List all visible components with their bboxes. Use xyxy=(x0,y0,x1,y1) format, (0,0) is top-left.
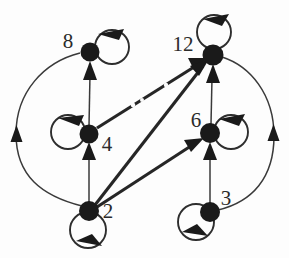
arrowhead-3-to-12 xyxy=(268,124,280,141)
directed-graph-figure: 8 12 4 6 2 3 xyxy=(0,0,289,258)
edge-2-to-4 xyxy=(82,142,96,204)
node-label-12: 12 xyxy=(173,32,194,56)
node-label-3: 3 xyxy=(221,186,232,210)
node-8[interactable] xyxy=(81,43,100,62)
edge-2-to-8-curve xyxy=(11,53,83,206)
edge-3-to-6 xyxy=(203,142,217,204)
node-6[interactable] xyxy=(200,123,220,143)
node-2[interactable] xyxy=(79,201,99,221)
arrowhead-4-to-8 xyxy=(83,61,97,80)
arrowhead-loop-3 xyxy=(182,224,208,236)
arrowhead-2-to-4 xyxy=(82,142,96,160)
self-loop-8 xyxy=(95,29,129,64)
self-loop-12 xyxy=(197,14,231,49)
arrowhead-6-to-12 xyxy=(206,64,220,83)
edge-2-to-6 xyxy=(97,138,204,207)
arrowhead-3-to-6 xyxy=(203,142,217,160)
node-3[interactable] xyxy=(200,202,220,222)
arrowhead-loop-2 xyxy=(76,234,102,246)
arrowhead-2-to-8 xyxy=(11,125,23,142)
edge-4-to-8 xyxy=(83,61,97,126)
node-label-8: 8 xyxy=(63,29,74,53)
node-12[interactable] xyxy=(203,45,224,66)
edge-6-to-12 xyxy=(206,64,220,124)
node-label-6: 6 xyxy=(191,108,202,132)
node-4[interactable] xyxy=(80,125,99,144)
node-label-2: 2 xyxy=(103,199,114,223)
node-label-4: 4 xyxy=(102,132,113,156)
diagram-canvas: 8 12 4 6 2 3 xyxy=(0,0,289,258)
